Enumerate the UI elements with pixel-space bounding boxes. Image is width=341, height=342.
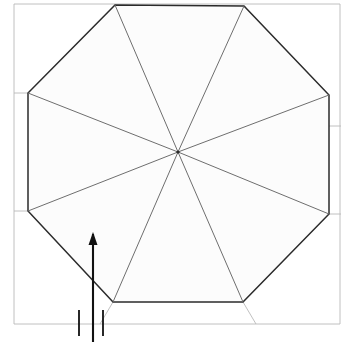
figure-container: Octagonal plan line drawing with radiati… <box>0 0 341 342</box>
line-drawing-canvas: Octagonal plan line drawing with radiati… <box>0 0 341 342</box>
center-point <box>176 150 179 153</box>
